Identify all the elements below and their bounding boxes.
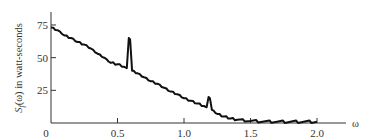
x-tick-label: 1.5 — [244, 127, 258, 139]
x-tick-label: 1.0 — [177, 127, 191, 139]
data-line — [51, 28, 317, 123]
y-axis-label: Sf(ω) in watt-seconds — [13, 23, 26, 113]
x-tick-label: 0.5 — [111, 127, 125, 139]
y-tick-label: 75 — [37, 19, 49, 31]
x-axis-label: ω — [352, 118, 359, 129]
y-tick-label: 50 — [37, 52, 49, 64]
y-tick-label: 25 — [37, 84, 49, 96]
x-tick-label: 0 — [43, 127, 49, 139]
spectral-density-chart: 255075 00.51.01.52.0 ω Sf(ω) in watt-sec… — [0, 0, 372, 140]
x-tick-label: 2.0 — [310, 127, 324, 139]
y-ticks: 255075 — [37, 19, 56, 96]
